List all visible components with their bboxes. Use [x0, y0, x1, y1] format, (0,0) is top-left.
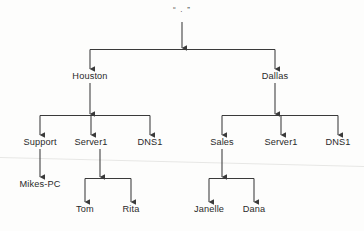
tree-node-tom: Tom — [76, 205, 94, 214]
tree-node-support: Support — [23, 138, 56, 147]
tree-node-server1-houston: Server1 — [74, 138, 107, 147]
tree-node-sales: Sales — [210, 138, 234, 147]
tree-node-dns1-houston: DNS1 — [137, 138, 162, 147]
tree-node-dns1-dallas: DNS1 — [325, 138, 350, 147]
tree-node-server1-dallas: Server1 — [264, 138, 297, 147]
tree-node-janelle: Janelle — [194, 205, 224, 214]
tree-node-rita: Rita — [123, 205, 140, 214]
edges-group — [40, 22, 338, 202]
tree-node-dana: Dana — [243, 205, 266, 214]
scan-artifact-line — [0, 158, 364, 167]
tree-node-houston: Houston — [72, 72, 107, 81]
tree-node-mikes-pc: Mikes-PC — [19, 180, 60, 189]
tree-connector-canvas — [0, 0, 364, 231]
tree-node-dallas: Dallas — [262, 72, 288, 81]
dns-hierarchy-diagram: “ . ” Houston Dallas Support Server1 DNS… — [0, 0, 364, 231]
tree-node-root: “ . ” — [173, 6, 191, 14]
